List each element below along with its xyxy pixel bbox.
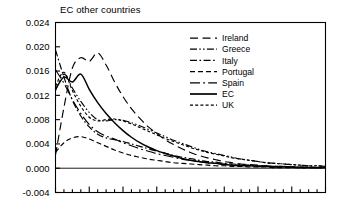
y-axis-tick-label: 0.012 [26, 90, 50, 101]
legend-label-spain: Spain [222, 78, 244, 88]
y-axis-tick-label: 0.004 [26, 138, 50, 149]
plot-area: -0.0040.0000.0040.0080.0120.0160.0200.02… [0, 0, 338, 215]
legend-label-greece: Greece [222, 44, 250, 54]
y-axis-tick-label: 0.000 [26, 163, 50, 174]
legend-label-ireland: Ireland [222, 33, 248, 43]
y-axis-tick-label: 0.016 [26, 65, 50, 76]
series-line-ec [56, 74, 326, 168]
series-line-ireland [56, 53, 326, 168]
y-axis-tick-label: 0.024 [26, 17, 50, 28]
legend-label-ec: EC [222, 89, 234, 99]
y-axis-tick-label: -0.004 [23, 187, 50, 198]
chart-figure: EC other countries -0.0040.0000.0040.008… [0, 0, 338, 215]
y-axis-tick-label: 0.020 [26, 41, 50, 52]
legend-label-portugal: Portugal [222, 67, 254, 77]
chart-svg: -0.0040.0000.0040.0080.0120.0160.0200.02… [0, 0, 338, 215]
chart-legend: IrelandGreeceItalyPortugalSpainECUK [190, 33, 254, 110]
series-line-italy [56, 50, 326, 168]
series-group [56, 50, 326, 168]
legend-label-uk: UK [222, 100, 234, 110]
legend-label-italy: Italy [222, 56, 238, 66]
y-axis-tick-label: 0.008 [26, 114, 50, 125]
